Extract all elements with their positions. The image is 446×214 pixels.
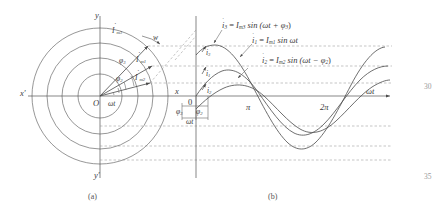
margin-line-number-35: 35 <box>424 172 432 181</box>
phase-bracket-phi3: φ3 <box>176 107 182 116</box>
equation-i3: i˙3 = Im3 sin (ωt + φ3) <box>222 20 291 30</box>
panel-a-x-axis-label: x <box>175 86 179 96</box>
phase-bracket-phi2: φ2 <box>196 107 202 116</box>
phasor-label-im2: I ˙ m2 <box>135 73 145 82</box>
figure-phasor-and-waveform: y y′ x′ x O ωt w φ3 φ2 I ˙ m3 I ˙ m1 I ˙… <box>0 0 446 214</box>
panel-a-omega-t-label: ωt <box>108 99 115 108</box>
phasor-label-im1: I ˙ m1 <box>136 55 146 64</box>
equation-i1: i˙1 = Im1 sin ωt <box>252 35 298 45</box>
equation-i1-dot-accent: ˙ <box>252 31 254 39</box>
tick-label-2pi: 2π <box>320 102 329 112</box>
tick-label-pi: π <box>246 102 250 112</box>
caption-panel-a: (a) <box>88 192 97 201</box>
phasor-im3 <box>100 46 148 96</box>
angle-phi2-label: φ2 <box>116 74 122 83</box>
curve-tag-i2: i2 <box>207 86 211 95</box>
phasor-dot-accent-3: ˙ <box>114 22 117 31</box>
phasor-dot-accent-1: ˙ <box>138 51 141 60</box>
curve-tag-i1: i1 <box>206 69 210 78</box>
panel-a-origin-label: O <box>93 98 99 108</box>
curve-i1 <box>196 66 388 135</box>
phasor-label-im3: I ˙ m3 <box>112 26 122 35</box>
panel-a-axes <box>28 16 196 178</box>
figure-canvas <box>0 0 446 214</box>
panel-a-y-axis-label: y <box>95 10 99 20</box>
panel-a-phasor-diagram <box>28 16 196 178</box>
panel-b-origin-label: 0 <box>188 97 192 107</box>
margin-line-number-30: 30 <box>424 82 432 91</box>
panel-a-y-prime-axis-label: y′ <box>94 170 100 180</box>
curve-i2 <box>196 80 390 132</box>
caption-panel-b: (b) <box>268 192 277 201</box>
panel-a-x-prime-axis-label: x′ <box>20 88 26 98</box>
equation-i2-dot-accent: ˙ <box>262 51 264 59</box>
rotation-direction-label: w <box>153 33 158 42</box>
equation-i3-dot-accent: ˙ <box>222 16 224 24</box>
panel-b-omega-t-axis-label: ωt <box>366 86 374 96</box>
phase-bracket-total-omega-t: ωt <box>186 117 193 126</box>
angle-phi3-label: φ3 <box>119 56 125 65</box>
curve-tag-i3: i3 <box>206 48 210 57</box>
equation-i2: i˙2 = Im2 sin (ωt − φ2) <box>262 55 331 65</box>
phasor-dot-accent-2: ˙ <box>137 69 140 78</box>
